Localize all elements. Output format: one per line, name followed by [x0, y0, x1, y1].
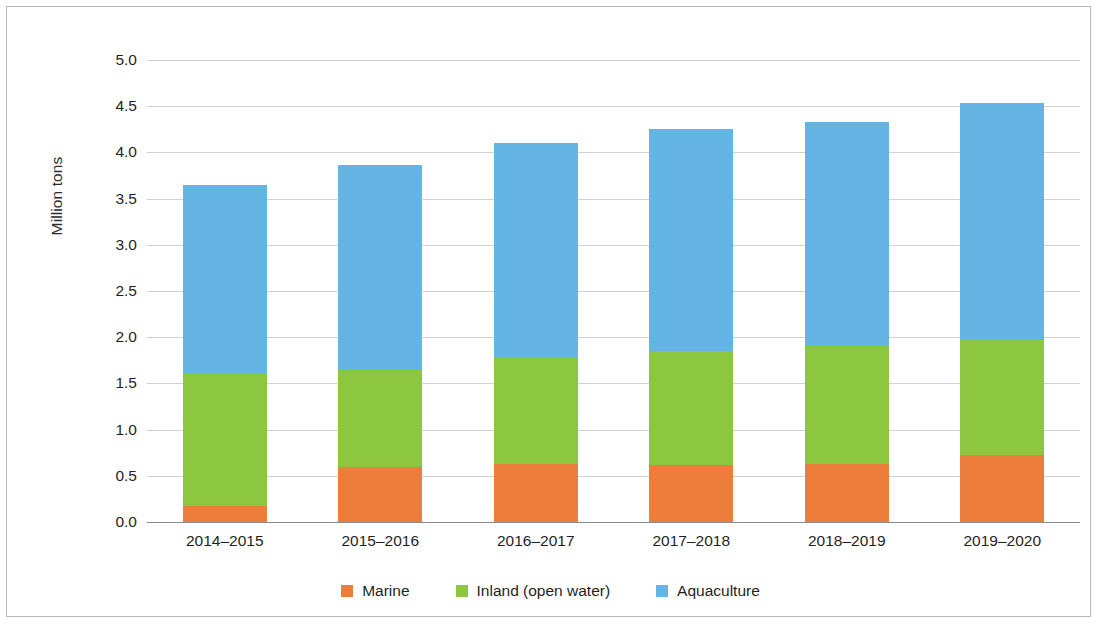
y-tick-label: 0.0	[83, 513, 137, 531]
bar-segment[interactable]	[494, 464, 578, 522]
x-axis-baseline	[147, 522, 1080, 523]
y-tick-label: 5.0	[83, 51, 137, 69]
x-tick-label: 2018–2019	[757, 532, 937, 550]
x-tick-label: 2015–2016	[290, 532, 470, 550]
legend-label: Marine	[362, 582, 409, 600]
x-axis-tick-labels: 2014–20152015–20162016–20172017–20182018…	[147, 532, 1080, 558]
legend-swatch-icon	[341, 585, 353, 597]
y-tick-label: 1.5	[83, 374, 137, 392]
bar-group[interactable]	[649, 60, 733, 522]
legend-label: Inland (open water)	[477, 582, 611, 600]
bar-segment[interactable]	[805, 464, 889, 522]
bar-segment[interactable]	[338, 467, 422, 522]
y-axis-tick-labels: 0.00.51.01.52.02.53.03.54.04.55.0	[81, 60, 137, 522]
bar-segment[interactable]	[494, 143, 578, 357]
x-tick-label: 2016–2017	[446, 532, 626, 550]
bar-segment[interactable]	[338, 165, 422, 369]
y-tick-label: 2.0	[83, 328, 137, 346]
legend-item[interactable]: Aquaculture	[656, 582, 760, 600]
bar-segment[interactable]	[805, 346, 889, 463]
legend-label: Aquaculture	[677, 582, 760, 600]
x-tick-label: 2017–2018	[601, 532, 781, 550]
bar-segment[interactable]	[183, 185, 267, 374]
bar-group[interactable]	[494, 60, 578, 522]
chart-figure: Million tons 0.00.51.01.52.02.53.03.54.0…	[0, 0, 1101, 630]
bar-segment[interactable]	[183, 374, 267, 506]
bar-segment[interactable]	[960, 455, 1044, 522]
y-tick-label: 0.5	[83, 467, 137, 485]
legend-swatch-icon	[656, 585, 668, 597]
x-tick-label: 2019–2020	[912, 532, 1092, 550]
bar-segment[interactable]	[649, 351, 733, 465]
bar-group[interactable]	[183, 60, 267, 522]
legend-swatch-icon	[456, 585, 468, 597]
legend-item[interactable]: Marine	[341, 582, 409, 600]
chart-legend: MarineInland (open water)Aquaculture	[0, 582, 1101, 600]
bar-group[interactable]	[338, 60, 422, 522]
bar-segment[interactable]	[960, 103, 1044, 340]
bar-group[interactable]	[960, 60, 1044, 522]
y-tick-label: 2.5	[83, 282, 137, 300]
bar-series-layer	[147, 60, 1080, 522]
legend-item[interactable]: Inland (open water)	[456, 582, 611, 600]
bar-segment[interactable]	[805, 122, 889, 347]
y-tick-label: 1.0	[83, 421, 137, 439]
y-tick-label: 4.0	[83, 143, 137, 161]
y-tick-label: 3.5	[83, 190, 137, 208]
bar-segment[interactable]	[649, 465, 733, 522]
y-tick-label: 4.5	[83, 97, 137, 115]
y-axis-title: Million tons	[48, 126, 70, 266]
bar-segment[interactable]	[494, 358, 578, 464]
y-tick-label: 3.0	[83, 236, 137, 254]
bar-group[interactable]	[805, 60, 889, 522]
x-tick-label: 2014–2015	[135, 532, 315, 550]
bar-segment[interactable]	[183, 506, 267, 522]
bar-segment[interactable]	[649, 129, 733, 351]
bar-segment[interactable]	[960, 340, 1044, 455]
bar-segment[interactable]	[338, 370, 422, 467]
